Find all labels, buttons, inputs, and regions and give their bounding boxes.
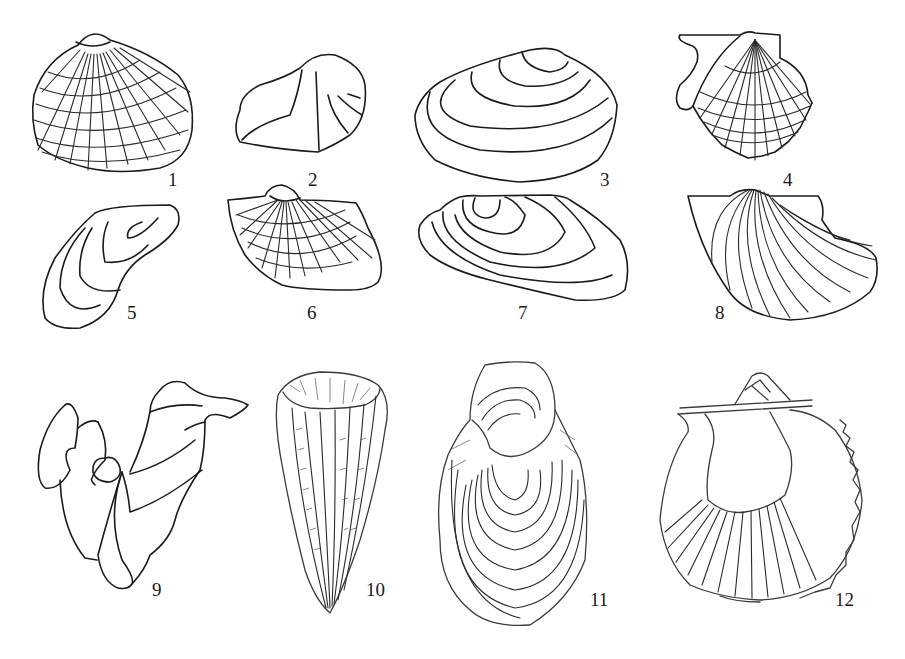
figure-label-1: 1 [168,170,178,189]
figure-label-6: 6 [307,303,317,322]
figure-label-5: 5 [127,303,137,322]
figure-8-drawing [688,190,877,320]
figure-label-11: 11 [590,590,608,609]
figure-label-12: 12 [835,590,854,609]
figure-1-drawing [33,34,193,171]
figure-6-drawing [228,185,381,290]
figure-5-drawing [43,205,179,328]
figure-4-drawing [677,32,813,160]
figure-label-7: 7 [518,303,528,322]
figure-label-4: 4 [783,170,793,189]
shell-figure-plate: 1 2 3 4 5 6 7 8 9 10 11 12 [0,0,905,659]
plate-drawings [0,0,905,659]
figure-12-drawing [660,373,862,602]
figure-label-9: 9 [152,580,162,599]
figure-10-drawing [276,372,387,613]
figure-label-10: 10 [366,580,385,599]
figure-7-drawing [419,195,628,300]
figure-2-drawing [236,55,365,152]
figure-11-drawing [439,362,587,626]
figure-3-drawing [415,48,617,182]
figure-label-2: 2 [308,170,318,189]
figure-label-3: 3 [600,170,610,189]
figure-label-8: 8 [715,303,725,322]
figure-9-drawing [38,382,248,589]
